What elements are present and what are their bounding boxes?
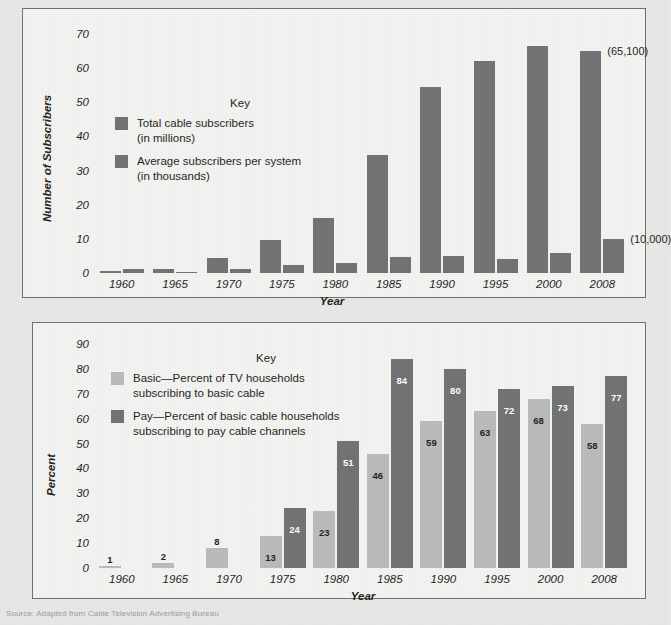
bar bbox=[603, 239, 624, 273]
bar bbox=[99, 566, 121, 568]
bar-value-label: 63 bbox=[480, 427, 491, 438]
legend-label-basic: Basic—Percent of TV households subscribi… bbox=[133, 371, 305, 400]
x-axis-tick-label: 1960 bbox=[109, 278, 135, 290]
bar-value-label: 23 bbox=[319, 527, 330, 538]
bar bbox=[580, 51, 601, 273]
bar bbox=[552, 386, 574, 568]
y-axis-tick-label: 0 bbox=[49, 562, 89, 574]
bar bbox=[474, 61, 495, 273]
x-axis-title: Year bbox=[320, 295, 345, 307]
x-axis-tick-label: 1980 bbox=[323, 278, 349, 290]
bar bbox=[443, 256, 464, 273]
x-axis-tick-label: 2000 bbox=[538, 573, 564, 585]
y-axis-tick-label: 60 bbox=[49, 413, 89, 425]
y-axis-tick-label: 20 bbox=[49, 512, 89, 524]
legend-label-line2: subscribing to basic cable bbox=[133, 387, 265, 399]
cable-subscribers-chart-panel: 010203040506070Number of Subscribers1960… bbox=[22, 8, 646, 298]
x-axis-tick-label: 1970 bbox=[216, 573, 242, 585]
bar bbox=[605, 376, 627, 568]
legend-swatch-pay bbox=[111, 410, 124, 423]
x-axis-tick-label: 2008 bbox=[591, 573, 617, 585]
x-axis-tick-label: 1985 bbox=[376, 278, 402, 290]
bar bbox=[420, 87, 441, 273]
bar-annotation-label: (10,000) bbox=[630, 233, 671, 245]
bar-value-label: 58 bbox=[587, 440, 598, 451]
y-axis-title: Percent bbox=[45, 453, 57, 495]
legend-label-line1: Pay—Percent of basic cable households bbox=[133, 410, 339, 422]
bar-value-label: 68 bbox=[533, 415, 544, 426]
y-axis-tick-label: 60 bbox=[49, 62, 89, 74]
y-axis-tick-label: 0 bbox=[49, 267, 89, 279]
legend-label-line2: (in thousands) bbox=[137, 170, 210, 182]
bar bbox=[283, 265, 304, 273]
x-axis-tick-label: 1980 bbox=[323, 573, 349, 585]
y-axis-tick-label: 30 bbox=[49, 165, 89, 177]
bar bbox=[313, 511, 335, 568]
chart-legend-top: Key Total cable subscribers (in millions… bbox=[115, 97, 365, 193]
bar bbox=[367, 155, 388, 273]
bar-value-label: 73 bbox=[557, 402, 568, 413]
y-axis-tick-label: 40 bbox=[49, 130, 89, 142]
x-axis-tick-label: 1995 bbox=[483, 278, 509, 290]
bar-value-label: 13 bbox=[265, 552, 276, 563]
legend-title: Key bbox=[111, 352, 421, 364]
bar bbox=[176, 272, 197, 273]
bar bbox=[260, 240, 281, 273]
bar-value-label: 77 bbox=[611, 392, 622, 403]
bar bbox=[152, 563, 174, 568]
legend-swatch-average-subscribers-per-system bbox=[115, 155, 128, 168]
legend-label-pay: Pay—Percent of basic cable households su… bbox=[133, 409, 339, 438]
bar bbox=[100, 271, 121, 273]
legend-item: Total cable subscribers (in millions) bbox=[115, 116, 365, 145]
legend-label-average-subscribers-per-system: Average subscribers per system (in thous… bbox=[137, 154, 301, 183]
source-note: Source: Adapted from Cable Television Ad… bbox=[6, 609, 219, 618]
legend-label-line2: subscribing to pay cable channels bbox=[133, 425, 306, 437]
x-axis-tick-label: 1995 bbox=[484, 573, 510, 585]
y-axis-tick-label: 10 bbox=[49, 537, 89, 549]
x-axis-tick-label: 1975 bbox=[270, 573, 296, 585]
legend-item: Average subscribers per system (in thous… bbox=[115, 154, 365, 183]
bar bbox=[550, 253, 571, 273]
bar-value-label: 80 bbox=[450, 385, 461, 396]
bar bbox=[527, 46, 548, 273]
x-axis-tick-label: 1965 bbox=[163, 573, 189, 585]
x-axis-tick-label: 1985 bbox=[377, 573, 403, 585]
bar-value-label: 72 bbox=[504, 405, 515, 416]
legend-title: Key bbox=[115, 97, 365, 109]
bar-value-label: 2 bbox=[161, 551, 166, 562]
bar bbox=[313, 218, 334, 273]
bar bbox=[497, 259, 518, 273]
y-axis-title: Number of Subscribers bbox=[41, 95, 53, 222]
legend-swatch-basic bbox=[111, 372, 124, 385]
x-axis-tick-label: 1965 bbox=[162, 278, 188, 290]
x-axis-tick-label: 2000 bbox=[536, 278, 562, 290]
bar bbox=[284, 508, 306, 568]
y-axis-tick-label: 50 bbox=[49, 438, 89, 450]
bar-value-label: 8 bbox=[214, 536, 219, 547]
bar bbox=[206, 548, 228, 568]
legend-label-line1: Basic—Percent of TV households bbox=[133, 372, 305, 384]
legend-item: Pay—Percent of basic cable households su… bbox=[111, 409, 421, 438]
y-axis-tick-label: 90 bbox=[49, 338, 89, 350]
bar bbox=[123, 269, 144, 273]
bar bbox=[153, 269, 174, 273]
y-axis-tick-label: 80 bbox=[49, 363, 89, 375]
x-axis-tick-label: 1990 bbox=[429, 278, 455, 290]
bar-value-label: 59 bbox=[426, 437, 437, 448]
bar bbox=[230, 269, 251, 273]
bar-annotation-label: (65,100) bbox=[607, 45, 648, 57]
legend-swatch-total-cable-subscribers bbox=[115, 117, 128, 130]
legend-label-line2: (in millions) bbox=[137, 132, 195, 144]
x-axis-title: Year bbox=[351, 590, 376, 602]
x-axis-tick-label: 1975 bbox=[269, 278, 295, 290]
legend-label-line1: Average subscribers per system bbox=[137, 155, 301, 167]
y-axis-tick-label: 50 bbox=[49, 96, 89, 108]
bar-value-label: 51 bbox=[343, 457, 354, 468]
x-axis-tick-label: 1970 bbox=[216, 278, 242, 290]
x-axis-tick-label: 1960 bbox=[109, 573, 135, 585]
basic-vs-pay-cable-chart-panel: 0102030405060708090Percent19601196521970… bbox=[32, 322, 646, 599]
y-axis-tick-label: 10 bbox=[49, 233, 89, 245]
bar-value-label: 1 bbox=[107, 554, 112, 565]
bar bbox=[207, 258, 228, 273]
y-axis-tick-label: 70 bbox=[49, 28, 89, 40]
